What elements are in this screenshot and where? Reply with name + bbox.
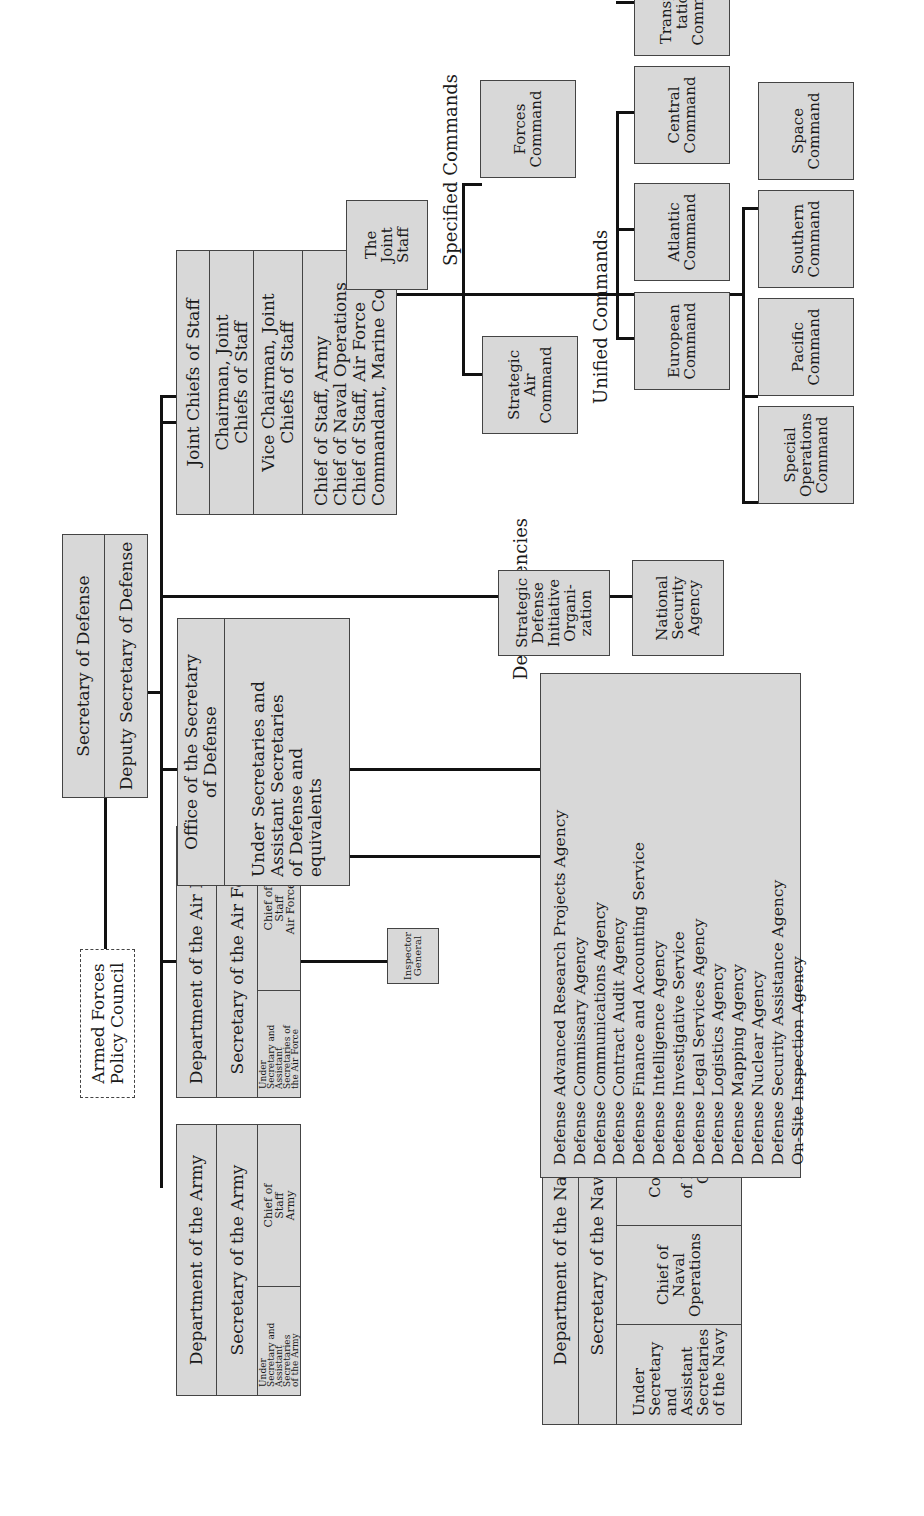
connector-european [616, 337, 634, 340]
secdef-box: Secretary of Defense Deputy Secretary of… [62, 534, 148, 798]
nsa-cell: National Security Agency [633, 561, 723, 655]
space-command-box: Space Command [758, 82, 854, 180]
connector-special-ops [742, 501, 758, 504]
european-cell: European Command [635, 293, 729, 389]
jcs-chairman: Chairman, Joint Chiefs of Staff [210, 251, 254, 514]
special-ops-cell: Special Operations Command [759, 407, 853, 503]
southern-command-box: Southern Command [758, 190, 854, 288]
agency-item: Defense Communications Agency [591, 686, 611, 1165]
sac-box: Strategic Air Command [482, 336, 578, 434]
forces-command-box: Forces Command [480, 80, 576, 178]
deputy-title: Deputy Secretary of Defense [105, 535, 147, 797]
agency-item: Defense Intelligence Agency [650, 686, 670, 1165]
osd-box: Office of the Secretary of Defense Under… [177, 618, 350, 886]
defense-agencies-box: Defense Advanced Research Projects Agenc… [540, 673, 801, 1178]
osd-title: Office of the Secretary of Defense [178, 619, 225, 885]
space-cell: Space Command [759, 83, 853, 179]
specified-commands-label: Specified Commands [440, 74, 461, 266]
army-dept: Department of the Army [177, 1125, 217, 1395]
org-chart: Secretary of Defense Deputy Secretary of… [0, 0, 924, 1516]
navy-cno: Chief of Naval Operations [617, 1225, 741, 1324]
policy-council-label: Armed Forces Policy Council [89, 963, 127, 1085]
agency-item: Defense Investigative Service [670, 686, 690, 1165]
transportation-cell: Transpor- tation Command [635, 0, 729, 55]
connector-space [742, 207, 758, 210]
sac-cell: Strategic Air Command [483, 337, 577, 433]
special-operations-command-box: Special Operations Command [758, 406, 854, 504]
agency-item: Defense Commissary Agency [571, 686, 591, 1165]
connector-forces [462, 183, 482, 186]
connector-sac [462, 373, 482, 376]
osd-under: Under Secretaries and Assistant Secretar… [225, 619, 349, 885]
agency-item: Defense Legal Services Agency [690, 686, 710, 1165]
connector-unified-row2 [742, 208, 745, 504]
forces-cell: Forces Command [481, 81, 575, 177]
jcs-title: Joint Chiefs of Staff [177, 251, 210, 514]
sdio-box: Strategic Defense Initiative Organi- zat… [498, 570, 610, 656]
connector-central [616, 111, 634, 114]
joint-staff-cell: The Joint Staff [347, 201, 427, 289]
atlantic-cell: Atlantic Command [635, 184, 729, 280]
inspector-general-box: Inspector General [387, 928, 439, 984]
central-cell: Central Command [635, 67, 729, 163]
army-secretary: Secretary of the Army [217, 1125, 258, 1395]
navy-under: Under Secretary and Assistant Secretarie… [617, 1324, 741, 1424]
agency-item: Defense Contract Audit Agency [610, 686, 630, 1165]
agency-item: Defense Nuclear Agency [749, 686, 769, 1165]
connector-transport [616, 1, 634, 4]
connector-atlantic [616, 228, 634, 231]
af-under: Under Secretary and Assistant Secretarie… [258, 990, 300, 1097]
jcs-members: Chief of Staff, Army Chief of Naval Oper… [303, 251, 396, 514]
transportation-command-box: Transpor- tation Command [634, 0, 730, 56]
connector-agencies [350, 855, 565, 858]
agency-item: Defense Logistics Agency [709, 686, 729, 1165]
connector-osd [160, 691, 163, 716]
southern-cell: Southern Command [759, 191, 853, 287]
defense-agencies-list: Defense Advanced Research Projects Agenc… [551, 686, 808, 1165]
agency-item: Defense Security Assistance Agency [769, 686, 789, 1165]
agency-item: On-Site Inspection Agency [789, 686, 809, 1165]
nsa-box: National Security Agency [632, 560, 724, 656]
connector-secdef-council [104, 798, 107, 949]
policy-council-box: Armed Forces Policy Council [80, 949, 135, 1098]
agency-item: Defense Mapping Agency [729, 686, 749, 1165]
agency-item: Defense Advanced Research Projects Agenc… [551, 686, 571, 1165]
connector-main-spine [160, 395, 163, 1188]
secretary-of-defense: Secretary of Defense [74, 575, 93, 756]
european-command-box: European Command [634, 292, 730, 390]
deputy-secretary-of-defense: Deputy Secretary of Defense [117, 542, 136, 791]
connector-unified-row1 [616, 112, 619, 340]
army-box: Department of the Army Secretary of the … [176, 1124, 301, 1396]
agency-item: Defense Finance and Accounting Service [630, 686, 650, 1165]
secdef-title: Secretary of Defense [63, 535, 105, 797]
unified-commands-label: Unified Commands [590, 230, 611, 404]
pacific-cell: Pacific Command [759, 299, 853, 395]
atlantic-command-box: Atlantic Command [634, 183, 730, 281]
central-command-box: Central Command [634, 66, 730, 164]
sdio-cell: Strategic Defense Initiative Organi- zat… [499, 571, 609, 655]
joint-staff-box: The Joint Staff [346, 200, 428, 290]
army-chief: Chief of Staff Army [258, 1125, 300, 1286]
jcs-vice: Vice Chairman, Joint Chiefs of Staff [254, 251, 303, 514]
army-under: Under Secretary and Assistant Secretarie… [258, 1286, 300, 1395]
ig-cell: Inspector General [388, 929, 438, 983]
pacific-command-box: Pacific Command [758, 298, 854, 396]
connector-pacific [742, 395, 758, 398]
connector-specified [462, 183, 465, 376]
